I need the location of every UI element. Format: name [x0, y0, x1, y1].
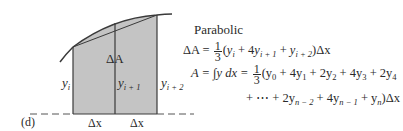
- ordinate-sub: i + 1: [124, 82, 141, 92]
- eq1-sub: i + 2: [295, 49, 312, 59]
- ordinate-sub: i: [68, 82, 70, 92]
- interval-label-1: Δx: [88, 117, 102, 129]
- eq3-term: + 4y: [313, 91, 339, 105]
- eq3-sub: n − 2: [295, 97, 314, 107]
- area-label: ΔA: [106, 52, 124, 65]
- ordinate-label-yi2: yi + 2: [161, 76, 183, 89]
- equation-area-continuation: + ⋯ + 2yn − 2 + 4yn − 1 + yn)Δx: [246, 92, 400, 105]
- eq2-term: + 4y: [336, 66, 362, 80]
- eq1-fraction: 13: [214, 41, 222, 62]
- eq1-term: +: [277, 43, 290, 57]
- eq2-lhs: A = ∫y dx =: [191, 66, 249, 80]
- eq3-sub: n − 1: [339, 97, 358, 107]
- interval-label-2: Δx: [130, 117, 144, 129]
- eq1-sub: i + 1: [260, 49, 277, 59]
- ordinate-label-yi1: yi + 1: [118, 76, 140, 89]
- eq3-term: + y: [358, 91, 378, 105]
- eq3-term: )Δx: [382, 91, 400, 105]
- equation-delta-a: ΔA = 13(yi + 4yi + 1 + yi + 2)Δx: [183, 41, 330, 62]
- method-title: Parabolic: [194, 23, 243, 36]
- eq2-term: (y: [262, 66, 272, 80]
- eq2-term: + 4y: [276, 66, 302, 80]
- panel-label: (d): [21, 116, 35, 128]
- eq1-term: )Δx: [312, 43, 330, 57]
- ordinate-label-yi: yi: [62, 76, 70, 89]
- eq2-sub: 4: [392, 72, 396, 82]
- eq1-frac-den: 3: [214, 52, 222, 62]
- eq2-fraction: 13: [253, 64, 261, 85]
- eq3-term: + ⋯ + 2y: [246, 91, 295, 105]
- eq2-term: + 2y: [367, 66, 393, 80]
- eq1-term: + 4: [235, 43, 255, 57]
- eq1-lhs: ΔA =: [183, 43, 210, 57]
- eq2-frac-den: 3: [253, 75, 261, 85]
- equation-area-total: A = ∫y dx = 13(y0 + 4y1 + 2y2 + 4y3 + 2y…: [191, 64, 397, 85]
- ordinate-sub: i + 2: [167, 82, 184, 92]
- eq2-term: + 2y: [306, 66, 332, 80]
